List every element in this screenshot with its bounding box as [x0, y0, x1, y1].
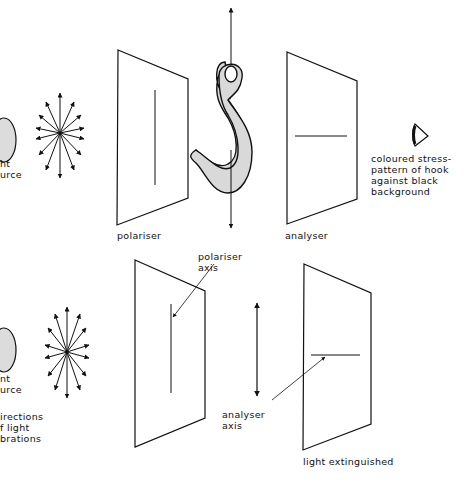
polariser-plate-top [117, 50, 188, 225]
light-source-label-bottom: nturce [0, 373, 22, 395]
analyser-axis-label: analyseraxis [222, 409, 265, 431]
polariser-label: polariser [117, 230, 161, 241]
light-source-top [0, 118, 16, 162]
vibrations-label: irectionsf lightbrations [0, 411, 43, 444]
light-extinguished-label: light extinguished [303, 456, 394, 467]
analyser-plate-top [287, 52, 357, 224]
light-source-bottom [0, 328, 16, 372]
light-source-label-top: hturce [0, 158, 22, 180]
polariser-plate-bottom [135, 260, 214, 447]
eye-icon [413, 124, 428, 146]
vibration-star-top [36, 93, 84, 178]
hook-icon [191, 8, 252, 228]
analyser-plate-bottom [272, 264, 371, 450]
analyser-label: analyser [285, 230, 328, 241]
observer-note: coloured stress-pattern of hookagainst b… [371, 153, 451, 197]
vibration-star-bottom [45, 307, 89, 398]
polariser-axis-label: polariseraxis [198, 251, 242, 273]
